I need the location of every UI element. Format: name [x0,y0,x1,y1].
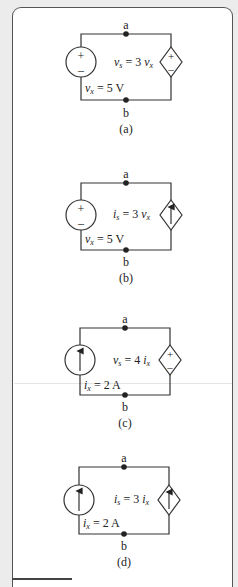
node-a-dot [122,325,128,331]
node-a-dot [123,180,129,186]
node-a-label: a [121,451,127,465]
independent-source-label: ix = 2 A [84,378,121,393]
plus-sign: + [168,50,174,62]
node-b-dot [123,247,129,253]
dependent-source-label: is = 3 ix [114,492,150,507]
independent-source-label: ix = 2 A [83,516,120,531]
independent-source-label: vx = 5 V [85,81,124,96]
minus-sign: – [77,216,85,230]
node-b-dot [123,97,129,103]
dependent-source-label: is = 3 vx [113,207,151,222]
circuit-c: a + – vs = 4 ix ix = 2 A b (c) [65,312,181,430]
caption-d: (d) [117,555,131,569]
minus-sign: – [166,361,173,373]
node-b-label: b [122,400,128,414]
node-a-label: a [122,312,128,326]
caption-b: (b) [119,271,133,285]
plus-sign: + [78,49,85,63]
minus-sign: – [77,63,85,77]
node-b-label: b [121,539,127,553]
node-b-dot [121,531,127,537]
minus-sign: – [167,63,174,75]
node-b-label: b [123,106,129,120]
node-b-label: b [123,255,129,269]
node-a-dot [121,464,127,470]
independent-source-label: vx = 5 V [85,232,124,247]
dependent-source-label: vs = 3 vx [114,55,154,70]
node-a-label: a [123,167,129,181]
circuit-d: a is = 3 ix ix = 2 A b (d) [64,451,180,569]
plus-sign: + [78,202,85,216]
node-b-dot [122,392,128,398]
circuit-b: a + – is = 3 vx vx = 5 V b (b) [66,167,182,285]
caption-a: (a) [119,122,132,136]
node-a-label: a [123,18,129,32]
caption-c: (c) [118,416,131,430]
dependent-source-label: vs = 4 ix [113,353,151,368]
node-a-dot [123,31,129,37]
plus-sign: + [167,348,173,360]
circuit-a: a + – + – vs = 3 vx vx = 5 V b (a) [66,18,182,136]
